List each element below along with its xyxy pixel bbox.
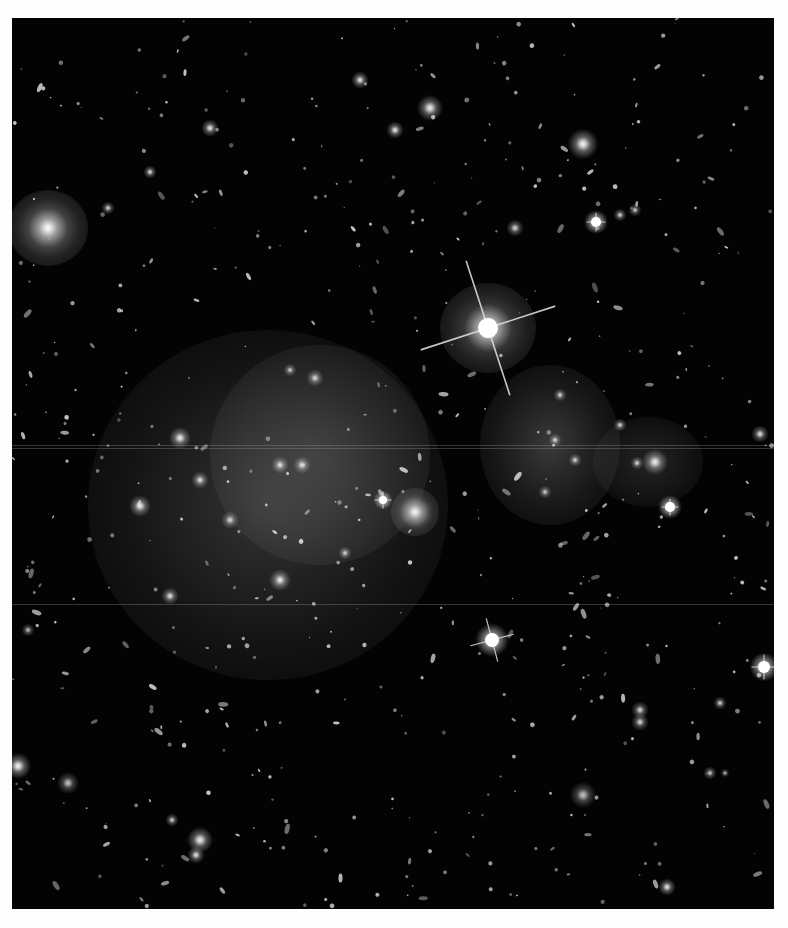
faint-galaxy: [601, 502, 608, 508]
faint-galaxy: [677, 350, 682, 355]
faint-galaxy: [745, 512, 754, 516]
faint-galaxy: [181, 34, 190, 42]
bright-galaxy: [634, 460, 640, 466]
faint-galaxy: [343, 207, 344, 208]
faint-galaxy: [704, 436, 707, 439]
faint-galaxy: [329, 903, 335, 909]
faint-galaxy: [768, 209, 772, 213]
faint-galaxy: [119, 412, 122, 415]
faint-galaxy: [366, 107, 369, 110]
faint-galaxy: [218, 702, 228, 707]
bright-galaxy: [408, 505, 422, 519]
faint-galaxy: [653, 842, 657, 846]
faint-galaxy: [489, 556, 492, 559]
faint-galaxy: [80, 106, 82, 108]
faint-galaxy: [52, 515, 55, 519]
faint-galaxy: [526, 299, 527, 300]
faint-galaxy: [420, 218, 424, 222]
faint-galaxy: [38, 583, 42, 588]
faint-galaxy: [572, 602, 580, 611]
faint-galaxy: [467, 371, 477, 379]
faint-galaxy: [35, 623, 39, 627]
bright-galaxy: [192, 851, 200, 859]
faint-galaxy: [452, 620, 454, 625]
faint-galaxy: [137, 482, 139, 484]
faint-galaxy: [413, 316, 417, 320]
faint-galaxy: [735, 708, 741, 714]
bright-galaxy: [717, 700, 723, 706]
faint-galaxy: [481, 813, 485, 817]
image-frame: [0, 0, 788, 928]
faint-galaxy: [581, 186, 587, 192]
faint-galaxy: [464, 97, 470, 103]
faint-galaxy: [58, 60, 63, 65]
faint-galaxy: [408, 858, 412, 865]
faint-galaxy: [379, 685, 382, 688]
bright-star-lower-icon: [465, 613, 519, 667]
faint-galaxy: [90, 719, 98, 725]
faint-galaxy: [167, 742, 172, 747]
faint-galaxy: [508, 141, 512, 145]
faint-galaxy: [633, 78, 636, 81]
bright-galaxy: [275, 575, 285, 585]
faint-galaxy: [323, 194, 327, 198]
faint-galaxy: [637, 120, 641, 124]
faint-galaxy: [488, 123, 491, 126]
faint-galaxy: [311, 320, 316, 326]
faint-galaxy: [405, 20, 408, 23]
bright-galaxy: [723, 771, 727, 775]
faint-galaxy: [708, 365, 710, 367]
faint-galaxy: [707, 176, 715, 182]
faint-galaxy: [60, 104, 63, 107]
faint-galaxy: [694, 206, 698, 210]
faint-galaxy: [18, 260, 24, 266]
faint-galaxy: [172, 626, 176, 630]
faint-galaxy: [194, 193, 199, 199]
faint-galaxy: [456, 237, 460, 241]
faint-galaxy: [499, 353, 503, 357]
faint-galaxy: [283, 818, 289, 824]
faint-galaxy: [501, 488, 511, 497]
faint-galaxy: [336, 560, 341, 565]
bright-galaxy: [391, 126, 399, 134]
faint-galaxy: [251, 774, 254, 777]
bright-galaxy: [311, 374, 319, 382]
faint-galaxy: [218, 189, 223, 196]
faint-galaxy: [702, 74, 705, 77]
faint-galaxy: [161, 864, 164, 867]
faint-galaxy: [200, 443, 209, 451]
faint-galaxy: [159, 113, 164, 118]
faint-galaxy: [536, 430, 540, 434]
faint-galaxy: [92, 433, 95, 436]
faint-galaxy: [644, 862, 647, 865]
faint-galaxy: [593, 535, 600, 542]
faint-galaxy: [765, 444, 767, 446]
bright-galaxy: [194, 834, 206, 846]
faint-galaxy: [139, 896, 144, 902]
faint-galaxy: [589, 699, 593, 703]
faint-galaxy: [315, 689, 320, 694]
faint-galaxy: [302, 903, 307, 908]
faint-galaxy: [125, 372, 128, 375]
bright-galaxy: [636, 718, 644, 726]
faint-galaxy: [516, 894, 518, 896]
bright-galaxy: [577, 789, 589, 801]
faint-galaxy: [630, 737, 634, 741]
bright-galaxy: [707, 770, 713, 776]
faint-galaxy: [391, 797, 395, 801]
faint-galaxy: [661, 33, 666, 38]
faint-galaxy: [599, 335, 601, 337]
faint-galaxy: [391, 807, 393, 809]
faint-galaxy: [350, 225, 357, 232]
faint-galaxy: [181, 742, 187, 748]
faint-galaxy: [753, 870, 763, 877]
faint-galaxy: [605, 602, 610, 607]
bright-galaxy: [557, 392, 563, 398]
faint-galaxy: [377, 382, 381, 388]
faint-galaxy: [74, 389, 77, 392]
faint-galaxy: [566, 873, 570, 876]
faint-galaxy: [718, 621, 721, 624]
faint-galaxy: [674, 18, 679, 21]
faint-galaxy: [149, 539, 151, 541]
faint-galaxy: [599, 694, 605, 700]
